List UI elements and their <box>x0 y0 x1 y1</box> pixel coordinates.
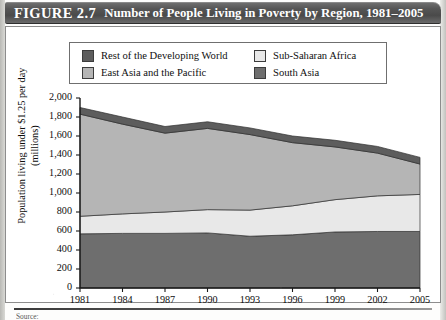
source-divider <box>14 308 432 310</box>
figure-number: FIGURE 2.7 <box>14 5 96 22</box>
plot-area-wrapper: Population living under $1.25 per day (m… <box>6 27 442 304</box>
source-note: Source: <box>16 312 316 320</box>
area-series-south-asia <box>80 231 420 288</box>
figure-container: FIGURE 2.7 Number of People Living in Po… <box>0 0 446 320</box>
figure-title: Number of People Living in Poverty by Re… <box>104 6 423 21</box>
stacked-area-plot <box>6 27 442 304</box>
chart-frame: Rest of the Developing World Sub-Saharan… <box>5 26 441 303</box>
figure-title-bar: FIGURE 2.7 Number of People Living in Po… <box>5 2 441 24</box>
